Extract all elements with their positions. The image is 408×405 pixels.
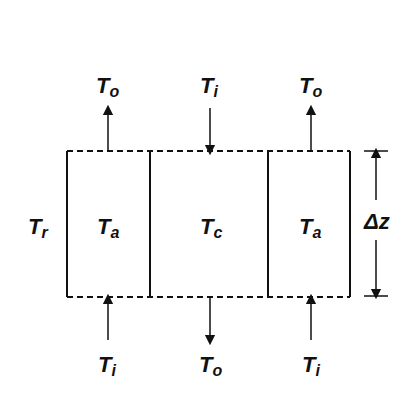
dimension-label: Δz (363, 209, 390, 234)
bottom-label-1: Ti (98, 352, 116, 379)
side-label: Tr (28, 214, 48, 241)
compartment-diagram: To Ti To Ti To Ti Ta Tc Ta Tr Δz (0, 0, 408, 405)
top-label-3: To (299, 73, 322, 100)
compartment-label-1: Ta (97, 214, 119, 241)
compartment-label-3: Ta (299, 214, 321, 241)
top-label-2: Ti (200, 73, 218, 100)
top-label-1: To (96, 73, 119, 100)
bottom-label-3: Ti (302, 352, 320, 379)
compartment-label-2: Tc (200, 214, 222, 241)
bottom-label-2: To (199, 352, 222, 379)
